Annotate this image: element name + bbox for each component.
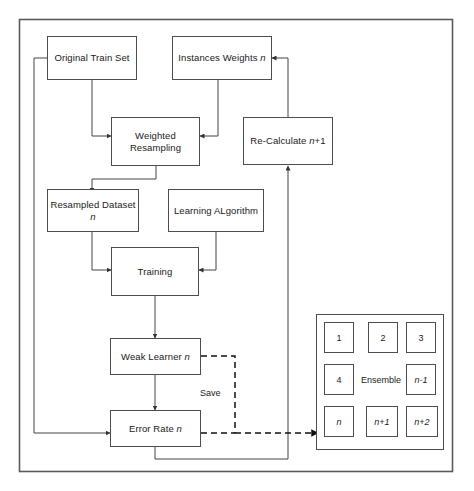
edge-recalculate-to-weights — [272, 58, 288, 125]
ensemble-cell-2-label: 2 — [380, 333, 385, 343]
node-re-calculate-label: Re-Calculate — [250, 135, 309, 146]
node-weighted-resampling[interactable]: Weighted Resampling — [111, 117, 200, 166]
ensemble-cell-2[interactable]: 2 — [368, 322, 398, 353]
ensemble-cell-n-plus-1-label: n+1 — [374, 417, 389, 427]
node-training[interactable]: Training — [111, 247, 199, 296]
node-re-calculate-increment: +1 — [315, 135, 326, 146]
clipped-caption-artifact — [0, 0, 474, 4]
node-error-rate-index: n — [177, 423, 182, 434]
node-original-train-set-label: Original Train Set — [54, 52, 129, 63]
node-resampled-dataset-label: Resampled Dataset — [50, 199, 135, 210]
edge-trainset-to-errorrate — [34, 58, 110, 433]
node-resampled-dataset-index: n — [90, 211, 95, 222]
ensemble-cell-1[interactable]: 1 — [324, 322, 354, 353]
ensemble-cell-n-plus-2-label: n+2 — [414, 417, 429, 427]
node-weighted-resampling-line2: Resampling — [130, 142, 181, 153]
node-error-rate[interactable]: Error Rate n — [110, 410, 201, 447]
edge-weights-to-resampling — [200, 80, 218, 136]
node-instances-weights[interactable]: Instances Weights n — [172, 36, 272, 80]
ensemble-cell-3-label: 3 — [418, 333, 423, 343]
node-weak-learner[interactable]: Weak Learner n — [110, 338, 201, 375]
edge-algorithm-to-training — [199, 232, 216, 270]
ensemble-title: Ensemble — [356, 364, 406, 395]
node-weighted-resampling-line1: Weighted — [135, 130, 176, 141]
ensemble-title-label: Ensemble — [361, 375, 401, 385]
node-original-train-set[interactable]: Original Train Set — [47, 36, 137, 80]
ensemble-cell-n-plus-2[interactable]: n+2 — [406, 406, 438, 437]
ensemble-cell-4[interactable]: 4 — [324, 364, 354, 395]
node-learning-algorithm[interactable]: Learning ALgorithm — [168, 189, 264, 232]
ensemble-cell-3[interactable]: 3 — [406, 322, 436, 353]
edge-dataset-to-training — [92, 232, 111, 270]
ensemble-cell-n-label: n — [336, 417, 341, 427]
ensemble-cell-n-plus-1[interactable]: n+1 — [366, 406, 398, 437]
node-weak-learner-index: n — [185, 351, 190, 362]
ensemble-cell-n-minus-1-label: n-1 — [414, 375, 427, 385]
edge-train-to-resampling — [92, 80, 111, 136]
ensemble-cell-4-label: 4 — [336, 375, 341, 385]
node-learning-algorithm-label: Learning ALgorithm — [174, 205, 258, 216]
node-instances-weights-index: n — [260, 52, 265, 63]
node-training-label: Training — [138, 266, 173, 277]
node-resampled-dataset[interactable]: Resampled Dataset n — [47, 189, 139, 232]
node-weak-learner-label: Weak Learner — [121, 351, 184, 362]
ensemble-cell-1-label: 1 — [336, 333, 341, 343]
edge-label-save: Save — [200, 388, 221, 398]
ensemble-cell-n-minus-1[interactable]: n-1 — [406, 364, 436, 395]
diagram-canvas: Original Train Set Instances Weights n W… — [0, 0, 474, 491]
node-instances-weights-label: Instances Weights — [178, 52, 260, 63]
ensemble-cell-n[interactable]: n — [324, 406, 354, 437]
node-error-rate-label: Error Rate — [129, 423, 177, 434]
node-re-calculate[interactable]: Re-Calculate n+1 — [243, 117, 333, 165]
